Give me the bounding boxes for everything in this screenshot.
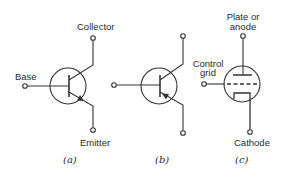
collector-terminal <box>91 36 96 41</box>
collector-terminal <box>181 34 186 39</box>
cathode-label: Cathode <box>234 138 270 148</box>
caption-a: (a) <box>63 155 77 165</box>
emitter-terminal <box>91 128 96 133</box>
grid-terminal <box>202 82 207 87</box>
triode-tube-symbol <box>202 34 260 135</box>
cathode-electrode <box>234 93 250 130</box>
caption-b: (b) <box>155 155 169 165</box>
pnp-transistor-symbol <box>112 34 186 136</box>
base-terminal <box>112 83 117 88</box>
circuit-symbols-figure: Collector Base Emitter (a) (b) Plate or … <box>0 0 281 176</box>
plate-terminal <box>241 34 246 39</box>
emitter-label: Emitter <box>80 138 110 148</box>
base-label: Base <box>15 72 37 82</box>
emitter-lead <box>160 92 183 131</box>
cathode-terminal <box>248 130 253 135</box>
base-terminal <box>23 84 28 89</box>
collector-label: Collector <box>77 22 115 32</box>
plate-label-line2: anode <box>222 22 264 32</box>
caption-c: (c) <box>235 155 248 165</box>
emitter-terminal <box>181 131 186 136</box>
grid-label-line2: grid <box>190 68 226 78</box>
npn-transistor-symbol <box>23 36 96 133</box>
